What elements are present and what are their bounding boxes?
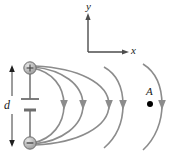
positive-terminal (24, 62, 36, 74)
negative-terminal (24, 137, 36, 149)
coordinate-axes (85, 13, 129, 55)
point-a-marker (147, 101, 153, 107)
field-line-loop-2 (34, 67, 83, 144)
dimension-arrow-down (9, 140, 15, 147)
field-line-loop-1 (33, 68, 64, 143)
field-line-arrowheads-arcs (119, 100, 166, 110)
x-axis-label: x (131, 45, 136, 56)
point-a-label: A (146, 86, 153, 97)
field-line-open-arcs (104, 64, 162, 150)
y-axis-label: y (86, 1, 91, 12)
y-axis-arrowhead (85, 13, 90, 20)
field-line-arrowheads-loops (60, 100, 113, 110)
separation-dimension (9, 65, 15, 147)
x-axis-arrowhead (122, 49, 129, 54)
field-line-arc-4 (104, 67, 123, 148)
field-line-loops (33, 66, 109, 145)
field-line-arc-5 (143, 64, 162, 150)
diagram-canvas (0, 0, 179, 156)
electric-field-diagram: y x d A (0, 0, 179, 156)
separation-label-d: d (4, 99, 10, 111)
battery-symbol (21, 74, 39, 138)
field-line-loop-3 (35, 66, 109, 145)
field-arrow-3 (105, 100, 113, 110)
field-arrow-5 (158, 100, 166, 110)
field-arrow-4 (119, 100, 127, 110)
field-arrow-1 (60, 100, 68, 110)
dimension-arrow-up (9, 65, 15, 72)
field-arrow-2 (79, 100, 87, 110)
